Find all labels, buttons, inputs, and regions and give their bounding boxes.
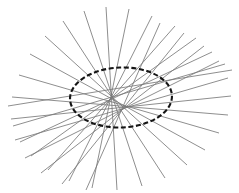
figure-canvas — [0, 0, 239, 193]
ellipse-envelope-plot — [0, 0, 239, 193]
plot-background — [0, 0, 239, 193]
